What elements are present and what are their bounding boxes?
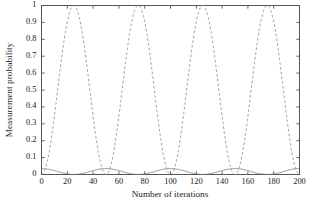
x-tick-label: 180 [261, 177, 287, 186]
y-tick-label: 0.8 [15, 34, 37, 43]
x-tick-label: 20 [54, 177, 80, 186]
y-tick-label: 0.6 [15, 68, 37, 77]
y-tick-label: 0.2 [15, 135, 37, 144]
x-tick-label: 60 [106, 177, 132, 186]
y-tick-label: 0.7 [15, 51, 37, 60]
x-tick-label: 200 [287, 177, 311, 186]
x-tick-label: 0 [29, 177, 55, 186]
y-tick-label: 0.3 [15, 118, 37, 127]
y-tick-label: 0.9 [15, 17, 37, 26]
x-axis-label: Number of iterations [41, 189, 299, 199]
chart-figure: Measurement probability Number of iterat… [0, 0, 310, 214]
series-oscillating-success-probability [42, 6, 300, 175]
y-tick-label: 0.4 [15, 101, 37, 110]
x-tick-label: 40 [80, 177, 106, 186]
y-tick-label: 0.5 [15, 85, 37, 94]
x-tick-label: 80 [132, 177, 158, 186]
x-tick-label: 160 [235, 177, 261, 186]
x-tick-label: 100 [158, 177, 184, 186]
x-tick-label: 140 [209, 177, 235, 186]
y-tick-label: 0.1 [15, 152, 37, 161]
x-tick-label: 120 [183, 177, 209, 186]
plot-frame [42, 6, 300, 175]
y-tick-label: 1 [15, 0, 37, 9]
y-axis-label-text: Measurement probability [4, 43, 14, 138]
